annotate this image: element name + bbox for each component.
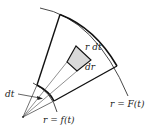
element-ray-right bbox=[23, 71, 77, 117]
dt-arrow-line bbox=[18, 94, 40, 98]
origin-point bbox=[22, 116, 24, 118]
polar-area-diagram: r dt dr dt r = f(t) r = F(t) bbox=[0, 0, 156, 133]
element-ray-left bbox=[23, 62, 67, 117]
label-r-dt: r dt bbox=[85, 42, 102, 52]
left-ray-thin bbox=[23, 85, 37, 117]
label-inner-curve: r = f(t) bbox=[43, 115, 75, 125]
label-outer-curve: r = F(t) bbox=[110, 99, 145, 109]
label-dt: dt bbox=[5, 89, 15, 99]
arrowhead-icon bbox=[37, 96, 43, 100]
outer-curve bbox=[40, 8, 128, 96]
label-dr: dr bbox=[85, 62, 96, 72]
left-ray bbox=[37, 15, 60, 86]
